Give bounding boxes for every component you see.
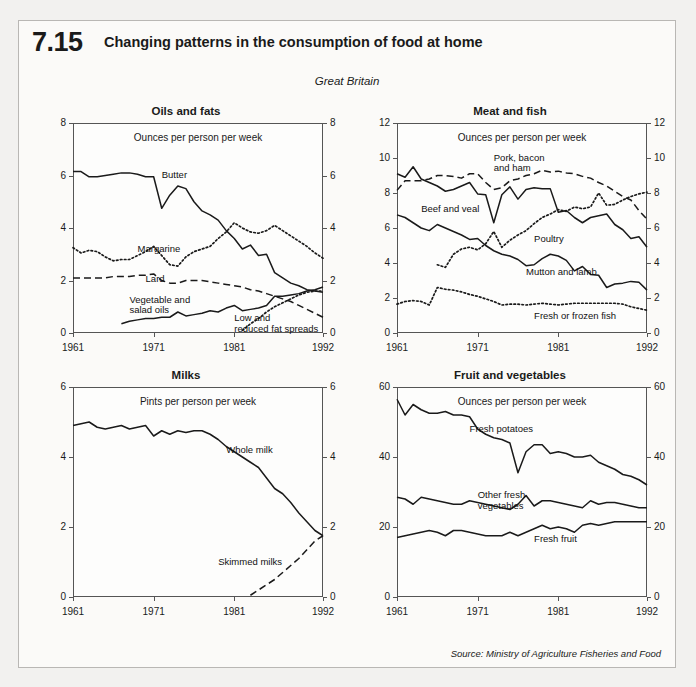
y-axis-tick-mark	[647, 527, 651, 528]
y-axis-tick-mark	[647, 298, 651, 299]
y-axis-tick-label: 40	[654, 452, 665, 462]
chart-title: Oils and fats	[25, 105, 347, 117]
series-label: Skimmed milks	[218, 557, 282, 568]
series-label: Other fresh vegetables	[478, 490, 526, 511]
y-axis-tick-label: 4	[330, 452, 336, 462]
series-label: Beef and veal	[421, 204, 479, 215]
y-axis-tick-label: 6	[60, 382, 66, 392]
y-axis-tick-mark	[647, 228, 651, 229]
x-axis-tick-label: 1961	[386, 342, 408, 353]
y-axis-tick-label: 60	[379, 382, 390, 392]
chart-panel-fruit-and-vegetables: Fruit and vegetables Ounces per person p…	[349, 369, 671, 629]
plot-area: Ounces per person per week 0020204040606…	[397, 387, 647, 597]
series-label: Margarine	[138, 244, 181, 255]
series-label: Fresh potatoes	[470, 424, 533, 435]
y-axis-tick-label: 8	[60, 118, 66, 128]
y-axis-tick-label: 0	[60, 592, 66, 602]
y-axis-tick-label: 20	[379, 522, 390, 532]
y-axis-tick-label: 4	[654, 258, 660, 268]
y-axis-tick-mark	[323, 527, 327, 528]
y-axis-tick-label: 2	[330, 276, 336, 286]
y-axis-tick-label: 2	[654, 293, 660, 303]
series-label: Poultry	[534, 234, 564, 245]
y-axis-tick-label: 4	[60, 223, 66, 233]
chart-panel-meat-and-fish: Meat and fish Ounces per person per week…	[349, 105, 671, 355]
x-axis-tick-mark	[397, 597, 398, 601]
y-axis-tick-label: 10	[379, 153, 390, 163]
y-axis-tick-label: 2	[330, 522, 336, 532]
x-axis-tick-label: 1992	[312, 606, 334, 617]
series-label: Fresh fruit	[534, 534, 577, 545]
y-axis-tick-mark	[323, 228, 327, 229]
series-label: Vegetable and salad oils	[129, 295, 190, 316]
y-axis-tick-mark	[323, 123, 327, 124]
y-axis-tick-mark	[647, 387, 651, 388]
y-axis-tick-label: 0	[384, 328, 390, 338]
y-axis-tick-mark	[647, 123, 651, 124]
y-axis-tick-label: 12	[654, 118, 665, 128]
x-axis-tick-mark	[558, 597, 559, 601]
y-axis-tick-label: 4	[384, 258, 390, 268]
series-label: Fresh or frozen fish	[534, 311, 616, 322]
x-axis-tick-mark	[647, 333, 648, 337]
x-axis-tick-mark	[323, 333, 324, 337]
plot-area: Ounces per person per week 0022446688196…	[73, 123, 323, 333]
figure-header: 7.15 Changing patterns in the consumptio…	[19, 21, 675, 67]
y-axis-tick-label: 2	[60, 276, 66, 286]
y-axis-tick-label: 6	[60, 171, 66, 181]
x-axis-tick-label: 1992	[636, 606, 658, 617]
y-axis-tick-label: 0	[384, 592, 390, 602]
figure-number: 7.15	[32, 27, 83, 58]
y-axis-tick-label: 0	[654, 592, 660, 602]
series-lines	[73, 123, 323, 333]
y-axis-tick-label: 6	[330, 382, 336, 392]
series-label: Whole milk	[226, 445, 272, 456]
y-axis-tick-mark	[323, 457, 327, 458]
x-axis-tick-label: 1992	[636, 342, 658, 353]
x-axis-tick-label: 1971	[467, 606, 489, 617]
y-axis-tick-label: 6	[330, 171, 336, 181]
x-axis-tick-mark	[558, 333, 559, 337]
x-axis-tick-label: 1961	[62, 606, 84, 617]
x-axis-tick-label: 1971	[143, 606, 165, 617]
series-label: Butter	[162, 170, 187, 181]
y-axis-tick-mark	[647, 193, 651, 194]
y-axis-tick-label: 4	[60, 452, 66, 462]
series-line	[73, 223, 323, 266]
x-axis-tick-label: 1971	[143, 342, 165, 353]
y-axis-tick-label: 60	[654, 382, 665, 392]
x-axis-tick-mark	[647, 597, 648, 601]
chart-title: Meat and fish	[349, 105, 671, 117]
y-axis-tick-mark	[323, 281, 327, 282]
y-axis-tick-mark	[647, 158, 651, 159]
series-label: Low and reduced fat spreads	[234, 313, 318, 334]
series-label: Mutton and lamb	[526, 267, 597, 278]
x-axis-tick-mark	[478, 597, 479, 601]
series-label: Lard	[146, 274, 165, 285]
figure-frame: 7.15 Changing patterns in the consumptio…	[18, 20, 676, 668]
x-axis-tick-mark	[154, 333, 155, 337]
y-axis-tick-label: 20	[654, 522, 665, 532]
chart-panel-oils-and-fats: Oils and fats Ounces per person per week…	[25, 105, 347, 355]
x-axis-tick-mark	[478, 333, 479, 337]
chart-title: Milks	[25, 369, 347, 381]
series-line	[397, 288, 647, 311]
y-axis-tick-label: 0	[60, 328, 66, 338]
figure-title: Changing patterns in the consumption of …	[104, 34, 483, 50]
x-axis-tick-mark	[397, 333, 398, 337]
series-line	[397, 399, 647, 485]
plot-area: Ounces per person per week 0022446688101…	[397, 123, 647, 333]
series-line	[397, 522, 647, 538]
y-axis-tick-label: 0	[330, 592, 336, 602]
y-axis-tick-mark	[323, 387, 327, 388]
x-axis-tick-label: 1981	[223, 606, 245, 617]
source-note: Source: Ministry of Agriculture Fisherie…	[451, 648, 661, 659]
series-lines	[73, 387, 323, 597]
y-axis-tick-label: 8	[384, 188, 390, 198]
y-axis-tick-mark	[323, 176, 327, 177]
series-line	[397, 215, 647, 290]
x-axis-tick-mark	[73, 333, 74, 337]
y-axis-tick-mark	[647, 263, 651, 264]
y-axis-tick-label: 2	[60, 522, 66, 532]
chart-title: Fruit and vegetables	[349, 369, 671, 381]
